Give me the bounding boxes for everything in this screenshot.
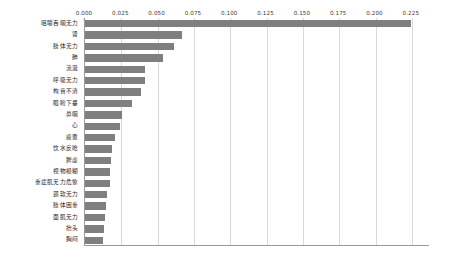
y-axis-label: 流涎 — [66, 66, 78, 72]
bar — [85, 123, 120, 131]
y-axis-label: 眼睑下垂 — [53, 101, 78, 107]
x-tick: 0.175 — [330, 10, 347, 16]
bar-row — [85, 100, 429, 108]
y-axis-label: 视物模糊 — [53, 169, 78, 175]
x-tick: 0.025 — [112, 10, 129, 16]
bar-row — [85, 202, 429, 210]
bar — [85, 20, 411, 28]
x-tick: 0.125 — [257, 10, 274, 16]
bar-row — [85, 77, 429, 85]
y-axis-label: 呼吸无力 — [53, 78, 78, 84]
bar — [85, 191, 107, 199]
x-tick-label: 0.000 — [76, 10, 93, 16]
y-axis-label: 构音不清 — [53, 89, 78, 95]
bar — [85, 180, 110, 188]
y-axis-label: 脾虚 — [66, 158, 78, 164]
y-axis-label: 鼻咽 — [66, 112, 78, 118]
bar-row — [85, 180, 429, 188]
y-axis-label: 肢体无力 — [53, 44, 78, 50]
y-axis-label: 饮水反呛 — [53, 146, 78, 152]
y-axis-label: 胸闷 — [66, 237, 78, 243]
bar-row — [85, 214, 429, 222]
bar — [85, 111, 122, 119]
y-axis-label: 肺 — [72, 55, 78, 61]
y-axis-label: 心 — [72, 123, 78, 129]
bar-row — [85, 20, 429, 28]
bar — [85, 66, 145, 74]
bar-row — [85, 31, 429, 39]
bar — [85, 43, 174, 51]
bar-row — [85, 123, 429, 131]
y-axis-label: 颈软无力 — [53, 192, 78, 198]
bar — [85, 145, 112, 153]
bar — [85, 237, 103, 245]
bar — [85, 157, 111, 165]
y-axis-label: 疲惫 — [66, 135, 78, 141]
bar-row — [85, 225, 429, 233]
x-tick-label: 0.175 — [330, 10, 347, 16]
bar-row — [85, 237, 429, 245]
x-tick: 0.100 — [221, 10, 238, 16]
bar — [85, 168, 110, 176]
bar — [85, 77, 145, 85]
x-tick-label: 0.125 — [257, 10, 274, 16]
bar-row — [85, 54, 429, 62]
bar-row — [85, 88, 429, 96]
x-tick: 0.150 — [294, 10, 311, 16]
y-axis-label: 咀嚼吞咽无力 — [41, 21, 78, 27]
x-tick-label: 0.025 — [112, 10, 129, 16]
bar — [85, 214, 105, 222]
bar-row — [85, 66, 429, 74]
bar — [85, 31, 182, 39]
bar — [85, 100, 132, 108]
y-axis-label: 面肌无力 — [53, 215, 78, 221]
x-tick-label: 0.100 — [221, 10, 238, 16]
bar-row — [85, 111, 429, 119]
x-tick-label: 0.225 — [403, 10, 420, 16]
y-axis-label: 重症肌无力危象 — [35, 180, 78, 186]
x-tick: 0.075 — [185, 10, 202, 16]
plot-area — [84, 18, 429, 246]
bar-row — [85, 43, 429, 51]
x-tick-label: 0.200 — [366, 10, 383, 16]
x-tick: 0.225 — [403, 10, 420, 16]
bar — [85, 88, 141, 96]
y-axis-label: 肾 — [72, 32, 78, 38]
bar — [85, 202, 106, 210]
y-axis-label: 肢体困重 — [53, 203, 78, 209]
bar — [85, 225, 104, 233]
x-tick: 0.050 — [148, 10, 165, 16]
bar-row — [85, 168, 429, 176]
bar — [85, 134, 115, 142]
bar-series — [85, 18, 429, 245]
bar-row — [85, 157, 429, 165]
x-tick-label: 0.075 — [185, 10, 202, 16]
bar-row — [85, 191, 429, 199]
y-axis-category-labels: 咀嚼吞咽无力肾肢体无力肺流涎呼吸无力构音不清眼睑下垂鼻咽心疲惫饮水反呛脾虚视物模… — [0, 18, 81, 246]
bar-chart: 0.0000.0250.0500.0750.1000.1250.1500.175… — [0, 0, 450, 264]
bar-row — [85, 134, 429, 142]
y-axis-label: 抬头 — [66, 226, 78, 232]
x-tick: 0.200 — [366, 10, 383, 16]
x-tick: 0.000 — [76, 10, 93, 16]
x-tick-label: 0.150 — [294, 10, 311, 16]
x-tick-label: 0.050 — [148, 10, 165, 16]
bar-row — [85, 145, 429, 153]
bar — [85, 54, 163, 62]
